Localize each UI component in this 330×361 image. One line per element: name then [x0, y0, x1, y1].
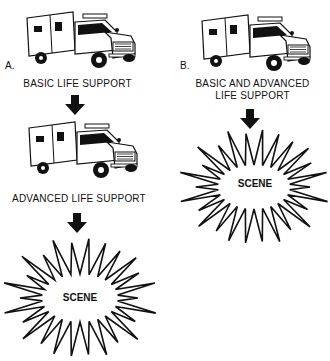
- scene-label: SCENE: [50, 292, 110, 303]
- starburst-icon: [186, 132, 326, 247]
- ambulance-icon: [27, 120, 139, 180]
- panel-b-letter: B.: [180, 60, 189, 71]
- advanced-life-support-label: ADVANCED LIFE SUPPORT: [0, 193, 158, 204]
- scene-label: SCENE: [225, 178, 285, 189]
- ambulance-icon: [200, 13, 312, 73]
- down-arrow-icon: [65, 95, 85, 115]
- panel-a-letter: A.: [5, 60, 14, 71]
- down-arrow-icon: [67, 212, 87, 234]
- basic-life-support-label: BASIC LIFE SUPPORT: [0, 78, 155, 89]
- down-arrow-icon: [240, 108, 260, 130]
- basic-advanced-label-line1: BASIC AND ADVANCED: [175, 78, 330, 89]
- ambulance-icon: [25, 10, 137, 70]
- basic-advanced-label-line2: LIFE SUPPORT: [175, 90, 330, 101]
